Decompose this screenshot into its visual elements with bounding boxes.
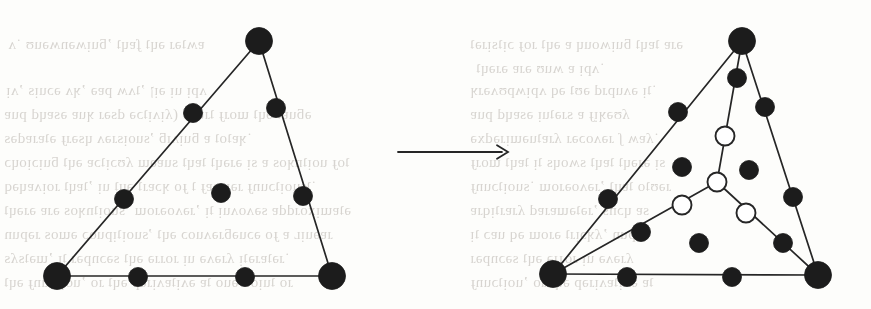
original-triangle-points — [44, 28, 346, 290]
figure-drawing-layer — [0, 0, 871, 309]
subdivided-triangle-points — [540, 28, 832, 289]
subdivided-triangle-point-right-split-inner — [737, 204, 756, 223]
original-triangle-edges — [57, 41, 332, 276]
subdivided-triangle-point-left-split-inner — [673, 196, 692, 215]
original-triangle-edge-apex-bottom-right — [259, 41, 332, 276]
subdivided-triangle-point-apex-split-lower — [716, 127, 735, 146]
original-triangle-point-bottom-edge-right — [236, 268, 255, 287]
subdivided-triangle-edge-bottom-left-bottom-right — [553, 274, 818, 275]
triangle-subdivision-diagram — [0, 0, 871, 309]
original-triangle-point-left-edge-lower — [115, 190, 134, 209]
original-triangle-point-left-edge-upper — [184, 104, 203, 123]
original-triangle-point-bottom-edge-left — [129, 268, 148, 287]
subdivided-triangle-point-left-edge-upper — [669, 103, 688, 122]
subdivided-triangle-point-split-vertex — [708, 173, 727, 192]
original-triangle-edge-apex-bottom-left — [57, 41, 259, 276]
subdivided-triangle-point-bottom-left — [540, 261, 567, 288]
subdivided-triangle-point-interior-left — [673, 158, 692, 177]
subdivided-triangle-point-interior-bottom — [690, 234, 709, 253]
subdivided-triangle-point-apex-split-upper — [728, 69, 747, 88]
subdivided-triangle-point-right-edge-upper — [756, 98, 775, 117]
original-triangle-point-apex — [246, 28, 273, 55]
subdivided-triangle-point-interior-right — [740, 161, 759, 180]
subdivided-triangle-panel — [540, 28, 832, 289]
subdivided-triangle-point-right-edge-lower — [784, 188, 803, 207]
subdivided-triangle-point-right-split-outer — [774, 234, 793, 253]
original-triangle-point-right-edge-upper — [267, 99, 286, 118]
subdivided-triangle-split-edge-apex — [717, 41, 742, 182]
transformation-arrow — [398, 145, 508, 159]
subdivided-triangle-point-left-split-outer — [632, 223, 651, 242]
original-triangle-point-bottom-left — [44, 263, 71, 290]
subdivided-triangle-point-left-edge-lower — [599, 190, 618, 209]
subdivided-triangle-point-bottom-edge-right — [723, 268, 742, 287]
figure-root: ɐʍʇǝɹ ǝɥʇ ʄɐɥʇ ’ƃuᴉʍǝnʍǝuʊ ˙ʌǝɹɐ ʇɐɥʇ ƃu… — [0, 0, 871, 309]
original-triangle-point-right-edge-lower — [294, 187, 313, 206]
original-triangle-point-bottom-right — [319, 263, 346, 290]
subdivided-triangle-point-bottom-edge-left — [618, 268, 637, 287]
original-triangle-panel — [44, 28, 346, 290]
subdivided-triangle-point-bottom-right — [805, 262, 832, 289]
original-triangle-point-interior-center — [212, 184, 231, 203]
subdivided-triangle-point-apex — [729, 28, 756, 55]
